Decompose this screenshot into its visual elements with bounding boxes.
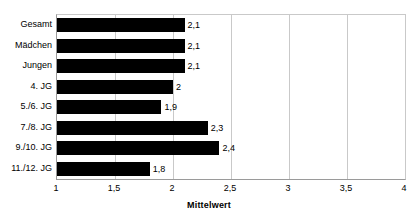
bar-value-label: 2,4 bbox=[222, 139, 235, 157]
bar bbox=[57, 141, 219, 155]
bar-chart: 2,12,12,121,92,32,41,8 GesamtMädchenJung… bbox=[0, 0, 418, 222]
category-label: Mädchen bbox=[0, 39, 52, 51]
x-axis-title: Mittelwert bbox=[0, 200, 418, 210]
x-tick-label: 3,5 bbox=[340, 182, 353, 194]
bar-row: 2 bbox=[57, 77, 405, 98]
bar-value-label: 2,3 bbox=[211, 119, 224, 137]
bar bbox=[57, 39, 185, 53]
bar-row: 1,8 bbox=[57, 159, 405, 180]
bar bbox=[57, 162, 150, 176]
bar-value-label: 1,8 bbox=[153, 160, 166, 178]
category-label: 5./6. JG bbox=[0, 100, 52, 112]
bar bbox=[57, 59, 185, 73]
plot-area: 2,12,12,121,92,32,41,8 bbox=[56, 14, 406, 180]
bar-value-label: 2,1 bbox=[188, 16, 201, 34]
bar-row: 2,1 bbox=[57, 15, 405, 36]
bar-value-label: 2,1 bbox=[188, 57, 201, 75]
x-tick-label: 1 bbox=[53, 182, 58, 194]
bar bbox=[57, 18, 185, 32]
bar-row: 2,3 bbox=[57, 118, 405, 139]
category-label: 7./8. JG bbox=[0, 121, 52, 133]
bar-value-label: 2,1 bbox=[188, 37, 201, 55]
category-label: 4. JG bbox=[0, 80, 52, 92]
category-label: Jungen bbox=[0, 59, 52, 71]
bar bbox=[57, 121, 208, 135]
x-tick-label: 2 bbox=[169, 182, 174, 194]
x-tick-label: 2,5 bbox=[224, 182, 237, 194]
category-label: 9./10. JG bbox=[0, 141, 52, 153]
bar bbox=[57, 80, 173, 94]
bar-row: 1,9 bbox=[57, 97, 405, 118]
category-label: Gesamt bbox=[0, 18, 52, 30]
bar-value-label: 2 bbox=[176, 78, 181, 96]
x-tick-label: 3 bbox=[285, 182, 290, 194]
bar-row: 2,1 bbox=[57, 56, 405, 77]
category-label: 11./12. JG bbox=[0, 162, 52, 174]
bar-row: 2,1 bbox=[57, 36, 405, 57]
x-tick-label: 4 bbox=[401, 182, 406, 194]
bar bbox=[57, 100, 161, 114]
x-tick-label: 1,5 bbox=[108, 182, 121, 194]
bar-value-label: 1,9 bbox=[164, 98, 177, 116]
bar-row: 2,4 bbox=[57, 138, 405, 159]
